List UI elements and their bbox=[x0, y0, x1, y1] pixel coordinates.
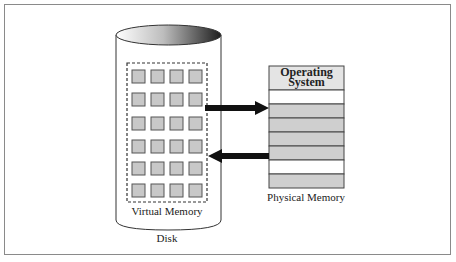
virtual-page bbox=[170, 117, 183, 130]
virtual-page bbox=[170, 93, 183, 106]
virtual-page bbox=[170, 162, 183, 175]
virtual-page bbox=[151, 117, 164, 130]
virtual-page bbox=[189, 162, 202, 175]
physical-frame bbox=[269, 104, 344, 118]
physical-frame bbox=[269, 174, 344, 188]
virtual-page bbox=[189, 184, 202, 197]
disk-label: Disk bbox=[117, 232, 217, 244]
virtual-page bbox=[170, 184, 183, 197]
virtual-page bbox=[151, 70, 164, 83]
physical-frame bbox=[269, 90, 344, 104]
virtual-page bbox=[132, 70, 145, 83]
os-header-label: Operating System bbox=[269, 67, 344, 87]
virtual-memory-label: Virtual Memory bbox=[117, 205, 217, 217]
virtual-page bbox=[189, 93, 202, 106]
virtual-page bbox=[170, 140, 183, 153]
disk-top-icon bbox=[116, 25, 221, 45]
virtual-page bbox=[170, 70, 183, 83]
physical-memory-label: Physical Memory bbox=[256, 191, 356, 203]
virtual-page bbox=[151, 184, 164, 197]
virtual-page bbox=[132, 117, 145, 130]
virtual-page bbox=[132, 93, 145, 106]
virtual-page bbox=[151, 162, 164, 175]
virtual-page bbox=[189, 140, 202, 153]
virtual-page bbox=[132, 140, 145, 153]
physical-frame bbox=[269, 132, 344, 146]
virtual-page bbox=[132, 184, 145, 197]
virtual-page bbox=[151, 93, 164, 106]
physical-frame bbox=[269, 146, 344, 160]
virtual-page bbox=[151, 140, 164, 153]
virtual-page bbox=[189, 117, 202, 130]
diagram-canvas bbox=[0, 0, 456, 262]
virtual-page bbox=[189, 70, 202, 83]
physical-frame bbox=[269, 160, 344, 174]
physical-frame bbox=[269, 118, 344, 132]
virtual-page bbox=[132, 162, 145, 175]
